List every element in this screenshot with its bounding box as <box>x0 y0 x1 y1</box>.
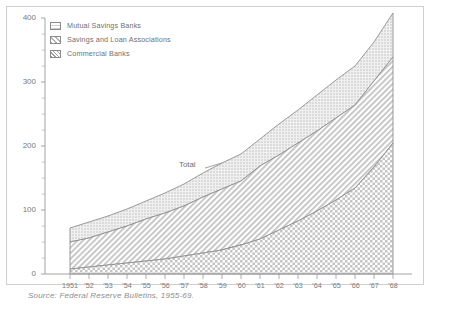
x-tick-label-68: '68 <box>382 281 404 290</box>
legend-swatch-crosshatch-icon <box>50 50 61 58</box>
legend-item-mutual-savings-banks: Mutual Savings Banks <box>50 20 171 31</box>
legend-label-savings-and-loan-associations: Savings and Loan Associations <box>67 35 171 44</box>
legend-item-savings-and-loan-associations: Savings and Loan Associations <box>50 34 171 45</box>
y-tick-label-0: 0 <box>10 269 36 278</box>
legend-swatch-diagonal-icon <box>50 36 61 44</box>
y-tick-label-400: 400 <box>10 13 36 22</box>
y-tick-label-100: 100 <box>10 205 36 214</box>
x-axis-ticks <box>70 274 393 279</box>
y-tick-label-300: 300 <box>10 77 36 86</box>
legend-item-commercial-banks: Commercial Banks <box>50 48 171 59</box>
source-note: Source: Federal Reserve Bulletins, 1955-… <box>28 291 194 300</box>
legend-swatch-stipple-icon <box>50 22 61 30</box>
chart-legend: Mutual Savings Banks Savings and Loan As… <box>50 20 171 62</box>
total-annotation-label: Total <box>179 160 195 169</box>
y-tick-label-200: 200 <box>10 141 36 150</box>
legend-label-commercial-banks: Commercial Banks <box>67 49 130 58</box>
y-axis-major-ticks <box>41 18 45 274</box>
legend-label-mutual-savings-banks: Mutual Savings Banks <box>67 21 141 30</box>
